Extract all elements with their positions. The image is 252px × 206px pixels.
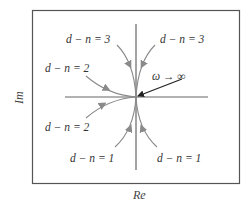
label-dn3-right: d − n = 3 [160, 33, 205, 45]
label-dn2-upper: d − n = 2 [45, 62, 90, 74]
label-dn1-right: d − n = 1 [157, 152, 201, 164]
curve-dn2-lower [86, 97, 136, 118]
curve-dn2-upper [86, 76, 136, 97]
curve-dn1-right [136, 97, 157, 147]
y-axis-label: Im [12, 91, 26, 105]
label-dn2-lower: d − n = 2 [45, 121, 90, 133]
curve-dn3-left [117, 45, 136, 97]
label-dn1-left: d − n = 1 [70, 152, 114, 164]
polar-plot-diagram: d − n = 3 d − n = 3 d − n = 2 d − n = 2 … [0, 0, 252, 206]
curve-dn1-left [115, 97, 136, 147]
label-dn3-left: d − n = 3 [66, 33, 111, 45]
x-axis-label: Re [132, 188, 146, 202]
label-omega-infinity: ω → ∞ [152, 70, 186, 82]
